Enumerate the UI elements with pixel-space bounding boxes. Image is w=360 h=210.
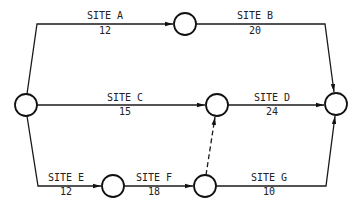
edge-value-site-d: 24: [266, 106, 278, 117]
edge-site-a: SITE A 12: [27, 10, 173, 94]
edge-label-site-d: SITE D: [254, 92, 290, 103]
edge-label-site-f: SITE F: [136, 172, 172, 183]
edge-value-site-g: 10: [263, 186, 275, 197]
edge-label-site-g: SITE G: [251, 172, 287, 183]
edge-site-e: SITE E 12: [27, 116, 101, 197]
node-after-site-f: [194, 175, 216, 197]
edge-value-site-a: 12: [99, 25, 111, 36]
node-after-site-c: [206, 94, 228, 116]
edge-value-site-f: 18: [148, 186, 160, 197]
edge-site-g: SITE G 10: [216, 116, 335, 197]
edge-label-site-e: SITE E: [48, 172, 84, 183]
edge-label-site-c: SITE C: [107, 92, 143, 103]
node-end: [325, 93, 347, 115]
node-after-site-a: [174, 13, 196, 35]
edge-site-b: SITE B 20: [196, 10, 334, 92]
edge-site-c: SITE C 15: [37, 92, 205, 117]
edge-site-d: SITE D 24: [228, 92, 324, 117]
edge-label-site-b: SITE B: [237, 10, 273, 21]
network-diagram: SITE A 12 SITE B 20 SITE C 15 SITE D 24 …: [0, 0, 360, 210]
edge-label-site-a: SITE A: [87, 10, 123, 21]
edge-dummy-dashed: [206, 117, 215, 175]
edge-value-site-b: 20: [249, 25, 261, 36]
node-start: [15, 94, 37, 116]
edge-value-site-c: 15: [119, 106, 131, 117]
edge-site-f: SITE F 18: [124, 172, 193, 197]
edge-value-site-e: 12: [60, 186, 72, 197]
node-after-site-e: [102, 175, 124, 197]
